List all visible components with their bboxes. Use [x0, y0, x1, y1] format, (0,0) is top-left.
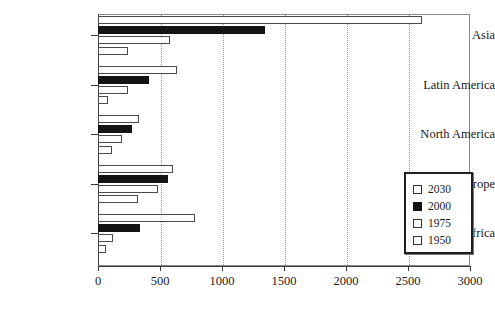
x-tick-label-2000: 2000	[321, 274, 371, 288]
legend-swatch-2000	[413, 202, 422, 211]
x-tick-label-1500: 1500	[259, 274, 309, 288]
bar-africa-2030	[98, 214, 195, 222]
x-tick-1500	[284, 266, 285, 271]
bar-europe-2030	[98, 165, 173, 173]
x-tick-label-3000: 3000	[445, 274, 495, 288]
legend-label-2030: 2030	[428, 184, 451, 195]
bar-asia-1975	[98, 36, 170, 44]
bar-asia-2030	[98, 16, 422, 24]
category-tick-latin-america	[91, 85, 98, 86]
bar-north-america-2000	[98, 125, 132, 133]
category-label-north-america: North America	[403, 128, 495, 140]
legend-swatch-1975	[413, 219, 422, 228]
bar-latin-america-1975	[98, 86, 128, 94]
legend-item-2000[interactable]: 2000	[413, 199, 451, 213]
x-tick-1000	[222, 266, 223, 271]
bar-europe-1975	[98, 185, 158, 193]
bar-chart: AsiaLatin AmericaNorth AmericaEuropeAfri…	[0, 0, 495, 309]
bar-europe-2000	[98, 175, 168, 183]
legend-swatch-1950	[413, 236, 422, 245]
category-tick-north-america	[91, 134, 98, 135]
bar-africa-1950	[98, 245, 106, 253]
x-tick-label-500: 500	[135, 274, 185, 288]
bar-europe-1950	[98, 195, 138, 203]
legend-label-1975: 1975	[428, 218, 451, 229]
x-tick-500	[160, 266, 161, 271]
category-tick-europe	[91, 184, 98, 185]
bar-africa-2000	[98, 224, 140, 232]
category-tick-asia	[91, 35, 98, 36]
bar-latin-america-2030	[98, 66, 177, 74]
legend-item-1950[interactable]: 1950	[413, 233, 451, 247]
bar-latin-america-2000	[98, 76, 149, 84]
category-label-latin-america: Latin America	[403, 79, 495, 91]
x-tick-label-1000: 1000	[197, 274, 247, 288]
x-tick-label-0: 0	[73, 274, 123, 288]
bar-asia-1950	[98, 47, 128, 55]
legend-item-1975[interactable]: 1975	[413, 216, 451, 230]
x-tick-label-2500: 2500	[383, 274, 433, 288]
category-label-asia: Asia	[403, 29, 495, 41]
bar-north-america-2030	[98, 115, 139, 123]
legend-item-2030[interactable]: 2030	[413, 182, 451, 196]
x-tick-3000	[470, 266, 471, 271]
bar-africa-1975	[98, 234, 113, 242]
legend-label-1950: 1950	[428, 235, 451, 246]
x-tick-2000	[346, 266, 347, 271]
bar-asia-2000	[98, 26, 265, 34]
category-tick-africa	[91, 233, 98, 234]
legend[interactable]: 2030200019751950	[404, 172, 473, 254]
bar-latin-america-1950	[98, 96, 108, 104]
bar-north-america-1950	[98, 146, 112, 154]
x-tick-0	[98, 266, 99, 271]
legend-label-2000: 2000	[428, 201, 451, 212]
legend-swatch-2030	[413, 185, 422, 194]
x-tick-2500	[408, 266, 409, 271]
bar-north-america-1975	[98, 135, 122, 143]
